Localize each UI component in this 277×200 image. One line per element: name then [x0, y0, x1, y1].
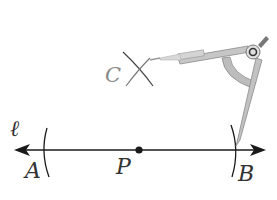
point-p — [135, 146, 142, 153]
label-line-l: ℓ — [10, 116, 20, 141]
compass-icon — [150, 36, 269, 146]
arc-c-2 — [126, 58, 150, 86]
arc-b — [231, 125, 236, 177]
label-c: C — [105, 63, 121, 87]
label-a: A — [23, 158, 41, 183]
label-p: P — [115, 154, 132, 179]
arc-a — [44, 128, 49, 177]
construction-diagram: ℓ A P B C — [0, 0, 277, 200]
label-b: B — [237, 161, 254, 186]
arc-c-1 — [123, 52, 153, 86]
